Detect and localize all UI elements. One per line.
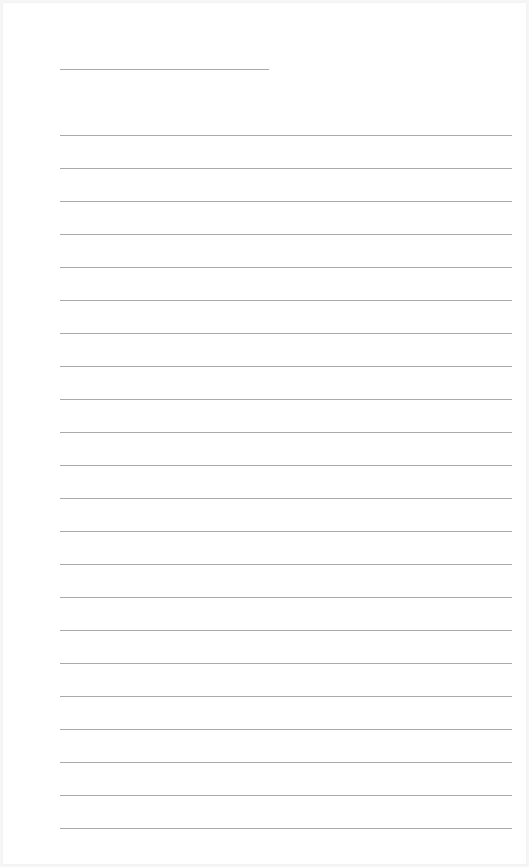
ruled-line: [60, 828, 512, 829]
ruled-line: [60, 168, 512, 169]
ruled-line: [60, 399, 512, 400]
ruled-line: [60, 795, 512, 796]
ruled-line: [60, 201, 512, 202]
ruled-line: [60, 333, 512, 334]
header-line: [60, 69, 269, 70]
ruled-line: [60, 729, 512, 730]
lined-paper: [3, 3, 526, 864]
ruled-line: [60, 267, 512, 268]
ruled-line: [60, 696, 512, 697]
ruled-line: [60, 300, 512, 301]
ruled-line: [60, 597, 512, 598]
ruled-line: [60, 465, 512, 466]
ruled-line: [60, 663, 512, 664]
ruled-line: [60, 630, 512, 631]
ruled-line: [60, 762, 512, 763]
ruled-line: [60, 432, 512, 433]
ruled-line: [60, 135, 512, 136]
ruled-line: [60, 366, 512, 367]
ruled-line: [60, 531, 512, 532]
ruled-line: [60, 498, 512, 499]
ruled-line: [60, 564, 512, 565]
ruled-line: [60, 234, 512, 235]
